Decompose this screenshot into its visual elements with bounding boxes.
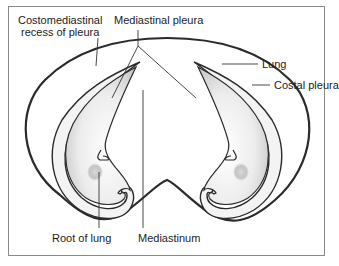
label-lung: Lung bbox=[262, 58, 286, 70]
label-costomediastinal-line1: Costomediastinal bbox=[18, 14, 102, 26]
label-mediastinal-pleura: Mediastinal pleura bbox=[114, 14, 203, 26]
label-costomediastinal-recess: Costomediastinal recess of pleura bbox=[18, 14, 102, 38]
right-lung-root bbox=[233, 163, 249, 181]
label-root-of-lung: Root of lung bbox=[52, 232, 111, 244]
label-mediastinum: Mediastinum bbox=[138, 232, 200, 244]
label-costal-pleura: Costal pleura bbox=[274, 79, 339, 91]
left-lung-root bbox=[87, 163, 103, 181]
label-costomediastinal-line2: recess of pleura bbox=[18, 26, 102, 38]
